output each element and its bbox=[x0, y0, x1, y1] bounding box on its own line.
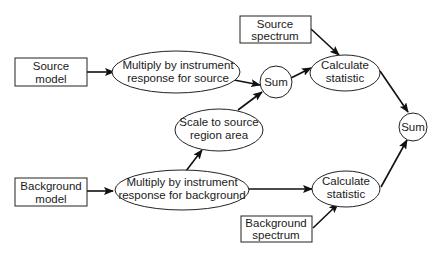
node-label-line: Multiply by instrument bbox=[126, 176, 238, 188]
node-label-line: model bbox=[35, 73, 66, 85]
edge-background-spectrum-to-calculate-bottom bbox=[313, 204, 338, 228]
edge-multiply-background-to-scale bbox=[186, 150, 202, 171]
node-label-line: Multiply by instrument bbox=[122, 59, 234, 71]
node-source-spectrum: Source spectrum bbox=[240, 16, 311, 43]
node-label-line: Calculate bbox=[321, 59, 369, 71]
node-label-line: response for source bbox=[127, 72, 229, 84]
node-multiply-source: Multiply by instrument response for sour… bbox=[112, 51, 240, 93]
edge-multiply-source-to-sum bbox=[234, 80, 260, 85]
node-label-line: spectrum bbox=[252, 229, 299, 241]
node-label-line: region area bbox=[190, 129, 249, 141]
edge-calculate-top-to-sum-final bbox=[380, 71, 408, 112]
node-sum-final: Sum bbox=[399, 113, 427, 141]
edge-sum-to-calculate-top bbox=[291, 68, 311, 78]
node-label-line: model bbox=[35, 193, 66, 205]
node-label-line: response for background bbox=[118, 189, 245, 201]
edge-source-spectrum-to-calculate-top bbox=[311, 29, 339, 55]
node-label-line: Sum bbox=[264, 76, 288, 88]
node-label-line: statistic bbox=[326, 72, 365, 84]
node-label-line: Sum bbox=[401, 121, 425, 133]
edge-scale-to-sum bbox=[238, 92, 262, 110]
node-label-line: spectrum bbox=[251, 30, 298, 42]
node-label-line: Scale to source bbox=[179, 116, 258, 128]
node-calculate-statistic-bottom: Calculate statistic bbox=[312, 171, 380, 207]
node-background-spectrum: Background spectrum bbox=[241, 216, 312, 242]
node-scale-to-source-region: Scale to source region area bbox=[175, 109, 263, 151]
node-source-model: Source model bbox=[15, 58, 87, 86]
node-background-model: Background model bbox=[15, 178, 87, 206]
node-label-line: Background bbox=[20, 180, 81, 192]
edge-calculate-bottom-to-sum-final bbox=[381, 140, 407, 187]
node-label-line: statistic bbox=[327, 188, 366, 200]
flowchart: Source model Multiply by instrument resp… bbox=[0, 0, 438, 253]
node-label-line: Calculate bbox=[322, 175, 370, 187]
node-label-line: Source bbox=[33, 60, 69, 72]
node-sum-top: Sum bbox=[260, 66, 292, 98]
node-multiply-background: Multiply by instrument response for back… bbox=[115, 170, 249, 210]
node-calculate-statistic-top: Calculate statistic bbox=[310, 55, 380, 91]
node-label-line: Source bbox=[257, 18, 293, 30]
node-label-line: Background bbox=[245, 217, 306, 229]
